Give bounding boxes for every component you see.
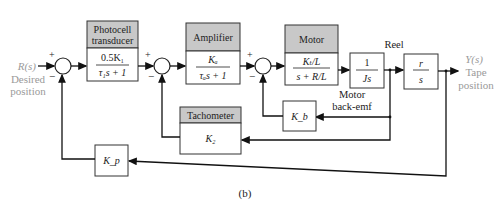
reel-label: Reel bbox=[384, 39, 403, 50]
s2-plus: + bbox=[145, 49, 151, 60]
reel-block: r s bbox=[404, 54, 438, 89]
svg-text:transducer: transducer bbox=[92, 35, 134, 46]
summing-junction-2 bbox=[154, 58, 170, 74]
figure-caption: (b) bbox=[239, 187, 252, 200]
svg-text:τₐs + 1: τₐs + 1 bbox=[199, 70, 226, 81]
svg-text:Kₜ/L: Kₜ/L bbox=[302, 56, 321, 67]
input-signal-label: R(s) bbox=[17, 60, 37, 73]
summing-junction-3 bbox=[255, 58, 271, 74]
s3-plus: + bbox=[247, 49, 253, 60]
backemf-label-line2: back-emf bbox=[332, 101, 372, 112]
block-diagram: R(s) Desired position + − Photocell tran… bbox=[0, 0, 498, 207]
back-emf-block: K_b bbox=[283, 101, 316, 131]
s3-minus: − bbox=[249, 70, 255, 82]
svg-text:Kₐ: Kₐ bbox=[207, 54, 218, 65]
svg-text:Photocell: Photocell bbox=[94, 24, 132, 35]
svg-text:K_p: K_p bbox=[102, 155, 120, 166]
position-feedback-block: K_p bbox=[95, 145, 128, 176]
inertia-block: 1 Js bbox=[350, 53, 384, 88]
svg-text:s: s bbox=[419, 74, 423, 85]
backemf-label-line1: Motor bbox=[339, 89, 366, 100]
summing-junction-1 bbox=[55, 58, 71, 74]
svg-text:Motor: Motor bbox=[299, 34, 325, 45]
svg-text:r: r bbox=[419, 58, 423, 69]
amplifier-block: Amplifier Kₐ τₐs + 1 bbox=[186, 23, 240, 84]
photocell-transducer-block: Photocell transducer 0.5K₁ τ₁s + 1 bbox=[87, 21, 138, 81]
input-desc-line1: Desired bbox=[11, 73, 46, 85]
svg-text:K₂: K₂ bbox=[204, 133, 216, 144]
tachometer-block: Tachometer K₂ bbox=[180, 107, 241, 154]
output-desc-line2: position bbox=[458, 79, 494, 91]
output-signal-label: Y(s) bbox=[465, 53, 483, 66]
s2-minus: − bbox=[148, 70, 154, 82]
s1-plus: + bbox=[49, 49, 55, 60]
motor-block: Motor Kₜ/L s + R/L bbox=[285, 25, 338, 85]
output-desc-line1: Tape bbox=[465, 66, 486, 78]
svg-text:Amplifier: Amplifier bbox=[193, 32, 233, 43]
svg-text:Js: Js bbox=[363, 73, 371, 84]
svg-text:s + R/L: s + R/L bbox=[296, 71, 327, 82]
svg-text:τ₁s + 1: τ₁s + 1 bbox=[99, 67, 127, 78]
svg-text:0.5K₁: 0.5K₁ bbox=[101, 52, 124, 63]
input-desc-line2: position bbox=[10, 85, 46, 97]
svg-text:K_b: K_b bbox=[290, 111, 308, 122]
s1-minus: − bbox=[49, 70, 55, 82]
svg-text:Tachometer: Tachometer bbox=[187, 110, 235, 121]
svg-text:1: 1 bbox=[365, 57, 370, 68]
